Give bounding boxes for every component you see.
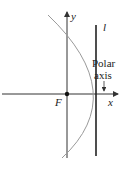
focus-label: F	[54, 96, 62, 108]
y-axis-label: y	[70, 10, 76, 22]
x-axis-label: x	[107, 96, 113, 108]
polar-axis-label-line1: Polar	[92, 57, 116, 69]
polar-axis-label-line2: axis	[94, 69, 112, 81]
directrix-label: l	[103, 21, 106, 33]
focus-point	[65, 92, 69, 96]
diagram-canvas: y l Polar axis F x	[0, 0, 129, 176]
parabola-curve	[48, 15, 93, 158]
